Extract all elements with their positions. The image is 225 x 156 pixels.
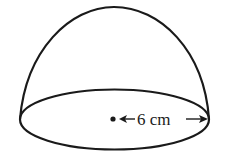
center-dot (110, 116, 115, 121)
radius-arrow-right (186, 115, 208, 123)
hemisphere-diagram: 6 cm (0, 0, 225, 156)
radius-arrow-left (119, 115, 135, 123)
radius-label: 6 cm (137, 110, 171, 129)
hemisphere-dome (20, 7, 209, 119)
